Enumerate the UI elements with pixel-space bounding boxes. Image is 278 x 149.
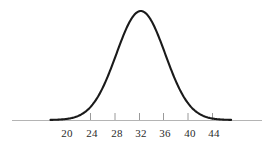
tick-label-40: 40 [184,128,196,139]
tick-label-20: 20 [61,128,73,139]
tick-label-28: 28 [111,128,123,139]
normal-distribution-curve [51,11,232,120]
bell-curve-figure: 20 24 28 32 36 40 44 [0,0,278,149]
tick-label-44: 44 [208,128,220,139]
tick-label-32: 32 [135,128,147,139]
tick-label-36: 36 [159,128,171,139]
tick-label-24: 24 [86,128,98,139]
x-axis-ticks [91,113,213,120]
